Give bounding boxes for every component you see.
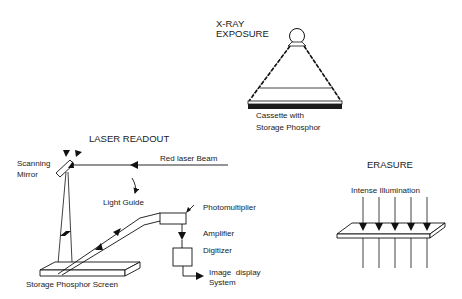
xray-tube-icon [290, 29, 305, 44]
image-display-line2: System [209, 278, 261, 288]
image-display-line1: Image display [209, 268, 261, 278]
image-display-system-label: Image display System [209, 268, 261, 288]
light-guide [58, 178, 160, 275]
xray-exposure-title: X-RAY EXPOSURE [216, 19, 269, 39]
light-guide-label: Light Guide [103, 198, 144, 208]
cassette [248, 101, 342, 104]
photomultiplier-label: Photomultiplier [203, 203, 256, 213]
scanning-mirror-line2: Mirror [17, 170, 50, 180]
scanning-mirror-label: Scanning Mirror [17, 159, 50, 180]
cassette-caption-line1: Cassette with [256, 111, 321, 121]
beam-direction-arrow-icon [130, 161, 138, 169]
amplifier-label: Amplifier [203, 229, 234, 239]
output-arrow-icon [196, 272, 204, 280]
scanning-mirror-icon [56, 150, 82, 177]
scan-spot-icon [60, 231, 71, 236]
digitizer-box [173, 248, 192, 266]
digitizer-label: Digitizer [203, 246, 232, 256]
cassette-caption-line2: Storage Phosphor [256, 123, 321, 133]
laser-readout-group [40, 150, 228, 280]
storage-phosphor-screen-label: Storage Phosphor Screen [26, 280, 118, 290]
storage-phosphor-layer [248, 104, 342, 109]
xray-exposure-group [248, 29, 342, 110]
scanning-mirror-line1: Scanning [17, 159, 50, 169]
intense-illumination-label: Intense Illumination [351, 186, 420, 196]
xray-title-line2: EXPOSURE [216, 29, 269, 39]
laser-readout-title: LASER READOUT [89, 134, 169, 144]
erasure-group [337, 197, 445, 268]
erasure-title: ERASURE [367, 160, 413, 170]
red-laser-beam-label: Red laser Beam [160, 154, 217, 164]
storage-phosphor-screen [40, 262, 140, 276]
cassette-caption: Cassette with Storage Phosphor [256, 111, 321, 133]
photomultiplier-box [160, 213, 186, 224]
xray-tube-base [288, 42, 306, 46]
amplifier-icon [178, 232, 186, 240]
